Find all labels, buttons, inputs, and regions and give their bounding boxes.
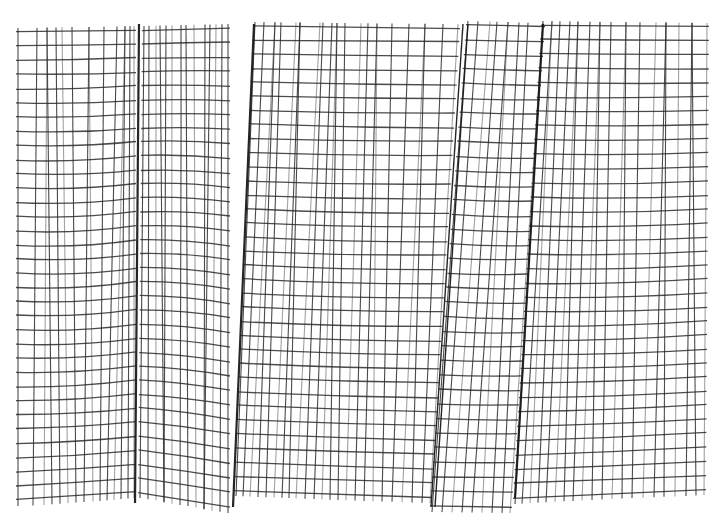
grid-horizontal-line xyxy=(524,307,707,311)
grid-horizontal-line xyxy=(448,273,529,274)
grid-vertical-line xyxy=(164,25,166,502)
grid-horizontal-line xyxy=(540,39,709,40)
grid-horizontal-line xyxy=(141,155,230,159)
grid-horizontal-line xyxy=(525,293,707,298)
grid-vertical-line xyxy=(236,22,255,496)
grid-horizontal-line xyxy=(539,68,709,69)
grid-vertical-line xyxy=(382,24,392,502)
grid-horizontal-line xyxy=(436,433,518,434)
grid-horizontal-line xyxy=(516,447,707,456)
grid-horizontal-line xyxy=(531,196,708,199)
grid-horizontal-line xyxy=(141,141,230,144)
grid-horizontal-line xyxy=(522,349,707,354)
grid-horizontal-line xyxy=(541,25,709,26)
grid-vertical-line xyxy=(194,25,196,507)
grid-horizontal-line xyxy=(16,30,136,31)
grid-horizontal-line xyxy=(142,58,230,59)
grid-horizontal-line xyxy=(16,101,136,104)
grid-horizontal-line xyxy=(139,353,230,363)
grid-horizontal-line xyxy=(141,197,231,202)
grid-horizontal-line xyxy=(530,209,708,213)
grid-horizontal-line xyxy=(16,254,136,260)
grid-horizontal-line xyxy=(535,125,708,126)
grid-horizontal-line xyxy=(246,195,450,199)
grid-vertical-line xyxy=(160,26,164,502)
grid-horizontal-line xyxy=(141,183,230,187)
grid-horizontal-line xyxy=(522,334,707,340)
grid-horizontal-line xyxy=(16,58,136,61)
grid-horizontal-line xyxy=(519,391,707,397)
grid-horizontal-line xyxy=(140,310,230,318)
grid-horizontal-line xyxy=(138,450,230,464)
grid-horizontal-line xyxy=(16,226,136,232)
grid-horizontal-line xyxy=(16,44,136,46)
grid-vertical-line xyxy=(338,23,345,500)
grid-vertical-line xyxy=(148,26,149,499)
grid-horizontal-line xyxy=(532,181,708,184)
grid-horizontal-line xyxy=(140,240,230,247)
grid-horizontal-line xyxy=(141,114,230,115)
grid-vertical-line xyxy=(675,23,679,497)
grid-horizontal-line xyxy=(538,82,709,83)
grid-vertical-line xyxy=(100,27,104,501)
grid-vertical-line xyxy=(266,22,281,497)
grid-horizontal-line xyxy=(533,167,709,169)
grid-vertical-line xyxy=(582,22,600,501)
grid-horizontal-line xyxy=(139,407,230,419)
grid-horizontal-line xyxy=(250,96,456,99)
grid-vertical-line xyxy=(632,22,640,498)
grid-horizontal-line xyxy=(239,377,439,383)
grid-horizontal-line xyxy=(246,209,450,214)
grid-vertical-line xyxy=(330,23,337,500)
grid-horizontal-line xyxy=(521,363,707,369)
fault-right xyxy=(515,24,543,498)
grid-vertical-line xyxy=(686,23,692,496)
grid-horizontal-line xyxy=(139,436,231,449)
grid-vertical-line xyxy=(220,24,222,512)
grid-horizontal-line xyxy=(140,281,230,289)
grid-horizontal-line xyxy=(138,465,230,478)
grid-horizontal-line xyxy=(433,462,515,463)
grid-mesh-figure xyxy=(0,0,722,523)
grid-horizontal-line xyxy=(244,237,447,242)
grid-vertical-line xyxy=(186,25,188,506)
grid-vertical-line xyxy=(89,27,93,502)
grid-horizontal-line xyxy=(16,85,136,89)
vertical-grid-lines xyxy=(18,21,707,513)
grid-horizontal-line xyxy=(527,265,708,269)
grid-vertical-line xyxy=(84,27,89,502)
grid-vertical-line xyxy=(602,22,611,500)
grid-horizontal-line xyxy=(523,321,707,327)
grid-horizontal-line xyxy=(238,392,438,398)
grid-vertical-line xyxy=(140,26,144,498)
fault-left xyxy=(135,24,139,503)
grid-horizontal-line xyxy=(16,268,136,274)
grid-horizontal-line xyxy=(16,170,136,174)
grid-horizontal-line xyxy=(16,142,136,146)
grid-horizontal-line xyxy=(539,53,709,54)
grid-vertical-line xyxy=(482,22,508,512)
grid-horizontal-line xyxy=(140,212,230,216)
grid-horizontal-line xyxy=(514,476,706,483)
grid-vertical-line xyxy=(33,28,37,506)
grid-vertical-line xyxy=(592,22,600,500)
grid-horizontal-line xyxy=(527,251,707,255)
grid-horizontal-line xyxy=(251,69,457,71)
grid-horizontal-line xyxy=(253,26,460,29)
grid-horizontal-line xyxy=(16,184,136,189)
grid-horizontal-line xyxy=(438,404,519,405)
grid-horizontal-line xyxy=(526,278,708,283)
grid-horizontal-line xyxy=(529,223,708,227)
grid-horizontal-line xyxy=(138,493,230,508)
grid-horizontal-line xyxy=(16,114,136,117)
grid-horizontal-line xyxy=(141,170,230,174)
grid-vertical-line xyxy=(643,22,656,497)
grid-vertical-line xyxy=(472,22,508,513)
grid-horizontal-line xyxy=(517,419,706,426)
grid-horizontal-line xyxy=(16,156,136,161)
grid-horizontal-line xyxy=(536,110,709,111)
grid-vertical-line xyxy=(62,27,68,503)
grid-vertical-line xyxy=(704,23,707,495)
grid-horizontal-line xyxy=(533,152,708,154)
grid-horizontal-line xyxy=(139,380,230,390)
